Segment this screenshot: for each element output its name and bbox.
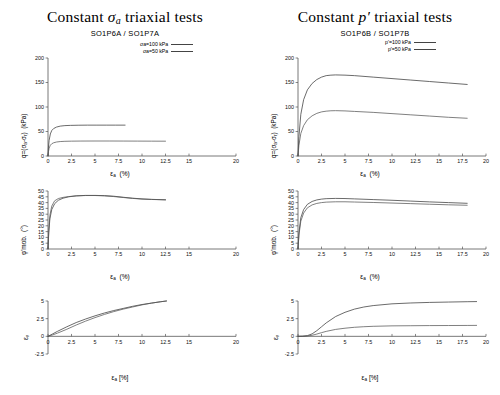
svg-text:15: 15	[436, 339, 442, 345]
svg-text:45: 45	[38, 194, 44, 200]
svg-text:5: 5	[291, 240, 294, 246]
svg-text:40: 40	[38, 200, 44, 206]
svg-text:12.5: 12.5	[160, 158, 171, 164]
svg-text:2.5: 2.5	[68, 339, 76, 345]
ylabel-left-mid: φ'mob. (°)	[20, 225, 27, 255]
svg-text:200: 200	[35, 55, 44, 61]
svg-text:12.5: 12.5	[410, 251, 421, 257]
svg-text:12.5: 12.5	[160, 251, 171, 257]
svg-text:25: 25	[38, 217, 44, 223]
svg-text:0: 0	[297, 158, 300, 164]
svg-text:0: 0	[47, 158, 50, 164]
svg-text:10: 10	[389, 251, 395, 257]
ylabel-left-top: q=(σa-σr) (kPa)	[20, 114, 28, 158]
svg-text:7.5: 7.5	[115, 339, 123, 345]
panel-right-subtitle: SO1P6B / SO1P7B	[250, 29, 500, 38]
svg-text:5: 5	[344, 339, 347, 345]
svg-text:5: 5	[344, 251, 347, 257]
svg-text:5: 5	[94, 158, 97, 164]
svg-text:12.5: 12.5	[410, 158, 421, 164]
svg-text:5: 5	[291, 298, 294, 304]
title-pre: Constant	[47, 8, 108, 25]
plot-left-mid: 0510152025303540455002.557.51012.51520	[0, 185, 250, 265]
svg-text:100: 100	[285, 104, 294, 110]
svg-text:7.5: 7.5	[365, 158, 373, 164]
svg-text:35: 35	[288, 205, 294, 211]
svg-text:17.5: 17.5	[457, 251, 468, 257]
plot-right-top: 05010015020002.557.51012.51517.520	[250, 52, 500, 172]
svg-text:20: 20	[233, 251, 239, 257]
svg-text:5: 5	[344, 158, 347, 164]
svg-text:2.5: 2.5	[287, 316, 295, 322]
ylabel-left-bot: εv	[22, 335, 30, 340]
svg-text:20: 20	[233, 339, 239, 345]
svg-text:20: 20	[483, 158, 489, 164]
svg-text:0: 0	[41, 333, 44, 339]
legend-right: p'=100 kPa p'=50 kPa	[385, 39, 436, 53]
title-post: triaxial tests	[121, 8, 203, 25]
svg-text:0: 0	[291, 153, 294, 159]
svg-text:15: 15	[288, 229, 294, 235]
svg-text:10: 10	[389, 339, 395, 345]
svg-text:-2.5: -2.5	[285, 351, 294, 357]
svg-text:5: 5	[94, 339, 97, 345]
svg-text:30: 30	[38, 211, 44, 217]
svg-text:10: 10	[139, 158, 145, 164]
svg-text:15: 15	[38, 229, 44, 235]
legend-line-icon	[414, 42, 436, 43]
panel-right-title: Constant p′ triaxial tests	[250, 8, 500, 26]
plot-right-bot: -2.502.5502.557.51012.51517.520	[250, 295, 500, 370]
xlabel-left-mid: εa (%)	[60, 273, 180, 281]
xlabel-left-bot: εa [%]	[60, 374, 180, 382]
panel-left-subtitle: SO1P6A / SO1P7A	[0, 29, 250, 38]
svg-text:10: 10	[139, 339, 145, 345]
svg-text:15: 15	[436, 251, 442, 257]
svg-text:20: 20	[38, 223, 44, 229]
svg-text:15: 15	[436, 158, 442, 164]
title-post: triaxial tests	[370, 8, 452, 25]
chart-right-mid: 0510152025303540455002.557.51012.51517.5…	[250, 185, 500, 265]
panel-left: Constant σa triaxial tests SO1P6A / SO1P…	[0, 0, 250, 395]
svg-text:0: 0	[297, 251, 300, 257]
ylabel-right-bot: εv	[272, 335, 280, 340]
svg-text:20: 20	[483, 251, 489, 257]
svg-text:20: 20	[233, 158, 239, 164]
title-symbol: σ	[108, 8, 116, 25]
legend-label: p'=100 kPa	[385, 39, 411, 45]
svg-text:15: 15	[186, 339, 192, 345]
svg-text:0: 0	[297, 339, 300, 345]
svg-text:50: 50	[38, 188, 44, 194]
svg-text:10: 10	[139, 251, 145, 257]
svg-text:2.5: 2.5	[68, 158, 76, 164]
svg-text:20: 20	[483, 339, 489, 345]
svg-text:5: 5	[41, 298, 44, 304]
legend-line-icon	[414, 49, 436, 50]
svg-text:0: 0	[47, 251, 50, 257]
svg-text:12.5: 12.5	[160, 339, 171, 345]
svg-text:50: 50	[288, 188, 294, 194]
svg-text:30: 30	[288, 211, 294, 217]
svg-text:25: 25	[288, 217, 294, 223]
panel-left-title: Constant σa triaxial tests	[0, 8, 250, 26]
legend-line-icon	[171, 44, 193, 45]
svg-text:5: 5	[41, 240, 44, 246]
svg-text:40: 40	[288, 200, 294, 206]
legend-item: p'=100 kPa	[385, 39, 436, 45]
figure-root: Constant σa triaxial tests SO1P6A / SO1P…	[0, 0, 500, 395]
svg-text:10: 10	[389, 158, 395, 164]
svg-text:0: 0	[291, 333, 294, 339]
svg-text:200: 200	[285, 55, 294, 61]
xlabel-right-top: εa (%)	[310, 170, 430, 178]
plot-right-mid: 0510152025303540455002.557.51012.51517.5…	[250, 185, 500, 265]
svg-text:0: 0	[291, 246, 294, 252]
svg-text:35: 35	[38, 205, 44, 211]
chart-left-bot: -2.502.5502.557.51012.51520	[0, 295, 250, 370]
svg-text:50: 50	[288, 128, 294, 134]
ylabel-right-mid: φ'mob. (°)	[270, 225, 277, 255]
legend-item: σa=100 kPa	[140, 41, 193, 47]
chart-right-top: 05010015020002.557.51012.51517.520	[250, 52, 500, 172]
svg-text:10: 10	[288, 234, 294, 240]
ylabel-right-top: q=(σa-σr) (kPa)	[270, 114, 278, 158]
plot-left-bot: -2.502.5502.557.51012.51520	[0, 295, 250, 370]
svg-text:2.5: 2.5	[318, 339, 326, 345]
